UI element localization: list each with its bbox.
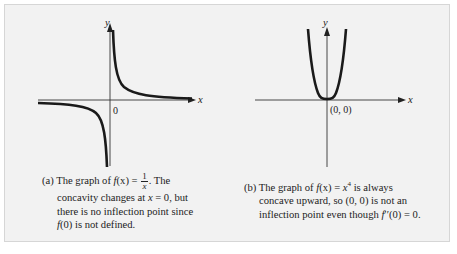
caption-b-line1: (b) The graph of f(x) = x4 is always [244, 178, 421, 194]
caption-b-tag: (b) [244, 182, 256, 193]
caption-b-line3-post: ′′(0) = 0. [384, 209, 420, 220]
caption-b: (b) The graph of f(x) = x4 is always con… [244, 178, 421, 221]
graph-a: x y 0 [38, 17, 203, 167]
graph-b: x y (0, 0) [255, 17, 413, 167]
caption-a-line2: concavity changes at x = 0, but [42, 191, 193, 205]
fraction-denominator: x [141, 182, 148, 191]
caption-a-tag: (a) [42, 175, 54, 186]
caption-b-fx: (x) = [319, 182, 343, 193]
caption-b-text: The graph of [259, 182, 316, 193]
caption-a-line3: there is no inflection point since [42, 205, 193, 219]
caption-a-post: . The [149, 175, 171, 186]
caption-b-post: is always [351, 182, 393, 193]
caption-a-line4: f(0) is not defined. [42, 218, 193, 232]
caption-a-text: The graph of [56, 175, 113, 186]
y-axis-label-b: y [322, 17, 328, 28]
caption-a: (a) The graph of f(x) = 1x. The concavit… [42, 172, 193, 232]
fraction-one-over-x: 1x [141, 172, 148, 191]
x-axis-label-b: x [407, 94, 413, 105]
caption-a-fx: (x) = [117, 175, 141, 186]
x-axis-label-a: x [197, 94, 203, 105]
caption-b-line2: concave upward, so (0, 0) is not an [244, 194, 421, 208]
curve-a-left [38, 103, 107, 167]
origin-label-a: 0 [113, 105, 118, 116]
caption-b-line3-pre: inflection point even though [259, 209, 381, 220]
caption-a-line1: (a) The graph of f(x) = 1x. The [42, 172, 193, 191]
caption-a-line2-pre: concavity changes at [57, 192, 148, 203]
y-axis-label-a: y [104, 17, 110, 28]
curve-a-right [113, 30, 192, 99]
caption-a-line4-post: (0) is not defined. [60, 219, 135, 230]
origin-label-b: (0, 0) [330, 104, 352, 116]
x-axis-arrow-icon [398, 97, 406, 103]
caption-a-line2-post: = 0, but [153, 192, 188, 203]
caption-b-line3: inflection point even though f′′(0) = 0. [244, 208, 421, 222]
y-axis-arrow-icon [324, 27, 330, 36]
